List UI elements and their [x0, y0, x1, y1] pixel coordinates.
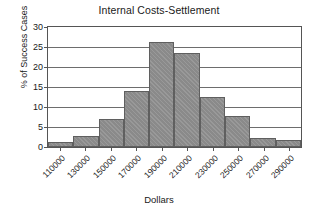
y-tick-label: 30 — [33, 22, 43, 32]
y-axis-title: % of Success Cases — [19, 0, 29, 117]
bar — [174, 53, 199, 147]
bar-slot — [225, 27, 250, 147]
x-tick-mark — [213, 148, 214, 151]
x-tick-mark — [264, 148, 265, 151]
bar-slot — [250, 27, 275, 147]
bar-slot — [276, 27, 301, 147]
x-tick-mark — [187, 148, 188, 151]
bar — [200, 97, 225, 147]
bar-slot — [174, 27, 199, 147]
bar — [149, 42, 174, 147]
x-tick-mark — [289, 148, 290, 151]
y-tick-label: 25 — [33, 42, 43, 52]
x-tick-mark — [60, 148, 61, 151]
chart-title: Internal Costs-Settlement — [0, 4, 318, 16]
x-axis-ticks: 1100001300001500001700001900002100002300… — [47, 148, 302, 192]
y-tick-label: 5 — [38, 122, 43, 132]
bar-series — [48, 27, 301, 147]
bar — [99, 119, 124, 147]
x-tick-mark — [136, 148, 137, 151]
x-tick-mark — [111, 148, 112, 151]
x-axis-title: Dollars — [0, 194, 318, 205]
bar-chart: Internal Costs-Settlement % of Success C… — [0, 0, 318, 215]
y-tick-label: 20 — [33, 62, 43, 72]
x-tick-slot: 290000 — [277, 148, 303, 192]
bar-slot — [48, 27, 73, 147]
plot-area: 051015202530 — [47, 26, 302, 148]
bar — [73, 136, 98, 147]
x-tick-label: 110000 — [40, 153, 67, 180]
y-tick-label: 0 — [38, 142, 43, 152]
x-tick-mark — [162, 148, 163, 151]
y-tick-label: 10 — [33, 102, 43, 112]
bar-slot — [124, 27, 149, 147]
bar-slot — [73, 27, 98, 147]
bar — [250, 138, 275, 147]
y-tick-label: 15 — [33, 82, 43, 92]
bar — [276, 140, 301, 147]
x-tick-mark — [238, 148, 239, 151]
bar-slot — [200, 27, 225, 147]
bar — [48, 142, 73, 147]
bar-slot — [149, 27, 174, 147]
bar — [225, 116, 250, 147]
bar — [124, 91, 149, 147]
bar-slot — [99, 27, 124, 147]
x-tick-mark — [85, 148, 86, 151]
